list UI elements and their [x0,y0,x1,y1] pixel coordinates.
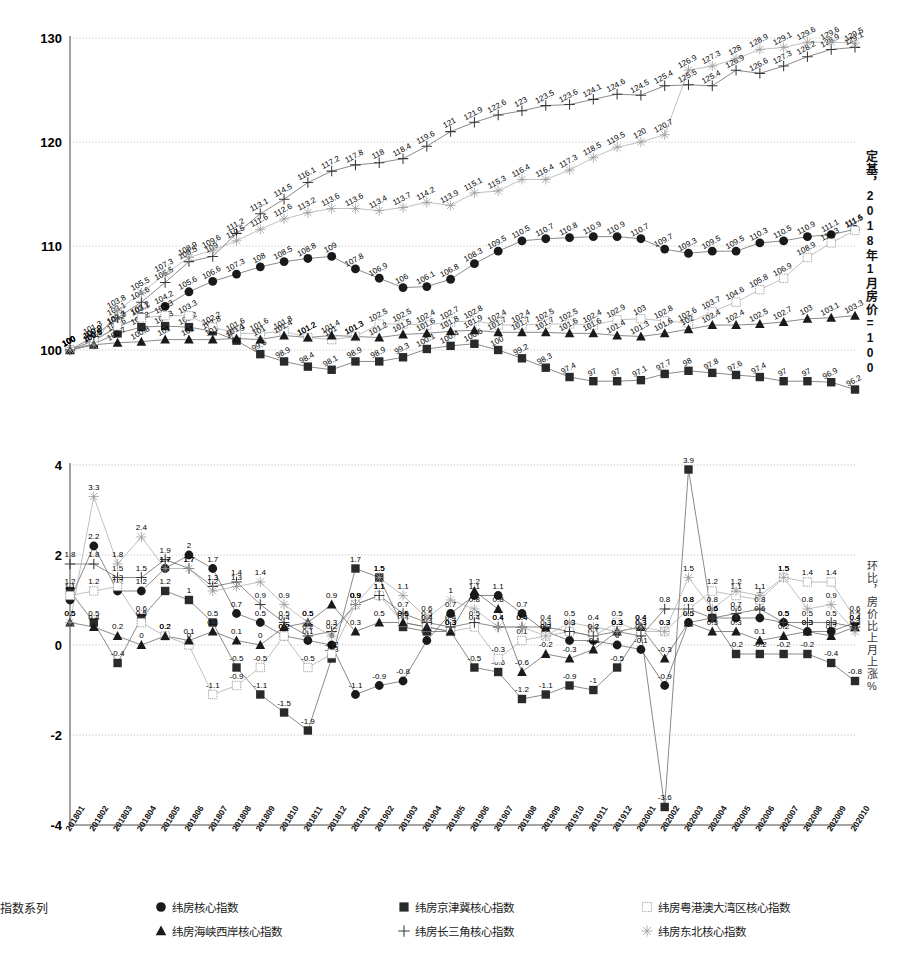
star-marker [755,590,765,600]
data-label: 113.6 [344,191,366,208]
data-label: 1.1 [64,582,76,591]
data-label: 0.8 [659,595,671,604]
data-label: 1.1 [493,582,505,591]
plus-icon [393,923,415,939]
star-marker [89,491,99,501]
data-label: -0.2 [325,640,339,649]
square-marker [351,564,359,572]
x-tick-label: 202008 [801,803,825,833]
data-label: -0.3 [563,645,577,654]
data-label: 127.3 [700,48,722,66]
star-marker [65,617,75,627]
x-tick-label: 201808 [230,803,254,833]
data-label: 123 [513,95,529,109]
data-label: 97 [776,366,789,378]
square-marker [518,695,526,703]
data-label: 124.1 [581,82,603,100]
data-label: -3.6 [658,793,672,802]
data-label: -0.5 [230,654,244,663]
y-tick-label: 2 [55,548,62,563]
legend-item-square-open[interactable]: 纬房粤港澳大湾区核心指数 [636,895,879,919]
data-label: 0.2 [160,622,172,631]
square-open-marker [642,902,651,911]
data-label: 0.3 [612,618,624,627]
data-label: 0.8 [493,595,505,604]
data-label: 125.4 [700,68,722,86]
legend-item-square[interactable]: 纬房京津冀核心指数 [393,895,636,919]
triangle-marker [374,617,384,626]
triangle-marker [208,626,218,635]
star-marker [588,622,598,632]
square-marker [732,650,740,658]
data-label: 1.2 [88,577,100,586]
data-label: 125.4 [653,68,675,86]
star-marker [802,604,812,614]
data-label: -1.1 [253,681,267,690]
data-label: -0.9 [372,672,386,681]
x-tick-label: 201905 [444,803,468,833]
star-marker [303,617,313,627]
x-tick-label: 201902 [372,803,396,833]
data-label: 126.6 [748,56,770,74]
data-label: -1.1 [206,681,220,690]
star-marker [683,572,693,582]
star-marker [113,559,123,569]
data-label: 1.8 [88,550,100,559]
data-label: 0.5 [302,609,314,618]
legend-item-circle[interactable]: 纬房核心指数 [150,895,393,919]
data-label: 112.6 [272,201,294,218]
data-label: 97 [800,366,813,378]
data-label: 118 [370,147,386,161]
data-label: -0.5 [610,654,624,663]
x-tick-label: 201812 [325,803,349,833]
x-tick-label: 201803 [111,803,135,833]
square-marker [494,668,502,676]
data-label: 113.4 [367,193,389,210]
star-marker [136,532,146,542]
data-label: 1.1 [397,582,409,591]
star-marker [731,586,741,596]
data-label: 0.9 [326,591,338,600]
x-tick-label: 201907 [491,803,515,833]
data-label: -0.8 [396,667,410,676]
legend-item-star[interactable]: 纬房东北核心指数 [636,919,879,943]
triangle-marker [517,667,527,676]
data-label: 1.5 [778,564,790,573]
data-label: 2.2 [88,532,100,541]
x-tick-label: 201807 [206,803,230,833]
legend-item-plus[interactable]: 纬房长三角核心指数 [393,919,636,943]
square-icon [393,899,415,915]
y-tick-label: 4 [55,458,63,473]
x-tick-label: 202006 [753,803,777,833]
top-chart-y-caption: 定基，2018年1月房价=100 [862,150,879,376]
data-label: 1.4 [802,568,814,577]
circle-marker [137,587,146,596]
data-label: 124.6 [605,77,627,95]
bottom-chart-y-caption: 环比，房价比上月上涨% [864,560,880,693]
data-label: 103 [632,303,648,317]
data-label: 100 [61,334,77,348]
circle-marker [351,690,360,699]
triangle-marker [156,925,167,935]
square-marker [256,690,264,698]
legend-item-triangle[interactable]: 纬房海峡西岸核心指数 [150,919,393,943]
star-marker [517,622,527,632]
plus-marker [659,604,670,615]
square-open-marker [66,591,74,599]
x-tick-label: 201906 [468,803,492,833]
star-marker [422,613,432,623]
index-base-chart: 100110120130100100.9102.2103.2104.2105.6… [0,0,897,440]
star-marker [231,581,241,591]
x-tick-label: 201804 [135,803,159,833]
triangle-icon [150,923,172,939]
star-marker [493,622,503,632]
square-marker [185,596,193,604]
data-label: 97 [586,366,599,378]
data-label: 119.5 [605,130,627,147]
data-label: 1.7 [160,555,172,564]
data-label: -0.2 [777,640,791,649]
data-label: 0.5 [207,609,219,618]
star-marker [398,590,408,600]
data-label: 97 [610,366,623,378]
triangle-marker [731,626,741,635]
